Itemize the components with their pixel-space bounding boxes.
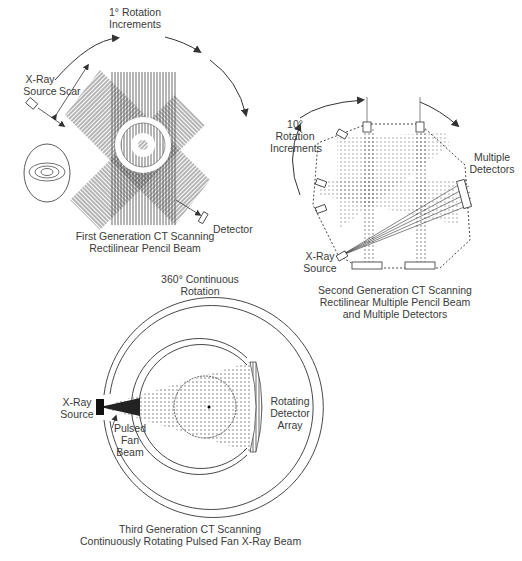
body-cross-section-icon [24,144,70,202]
multiple-detectors-label: MultipleDetectors [462,151,522,175]
third-generation-caption: Third Generation CT ScanningContinuously… [80,523,300,547]
rotation-arc [165,37,200,52]
rotation-label: 1° RotationIncrements [95,6,175,30]
first-generation-caption: First Generation CT ScanningRectilinear … [60,230,230,254]
rotation-arc [210,60,246,115]
xray-source-label: X-RaySource [57,396,97,420]
xray-source-icon [96,399,104,415]
scan-label: Scar [59,85,81,97]
xray-source-icon [26,97,38,109]
pulsed-fan-beam-label: PulsedFanBeam [110,422,150,458]
rotation-arc [55,38,118,80]
detector-icon [198,212,208,224]
xray-source-label: X-RaySource [300,250,340,274]
rotation-label: 10°RotationIncrements [270,118,320,154]
first-generation-panel [24,37,246,230]
second-generation-caption: Second Generation CT ScanningRectilinear… [310,284,480,320]
xray-source-label: X-RaySource [20,73,60,97]
rotating-detector-array-label: RotatingDetectorArray [260,395,320,431]
continuous-rotation-label: 360° ContinuousRotation [150,273,250,297]
